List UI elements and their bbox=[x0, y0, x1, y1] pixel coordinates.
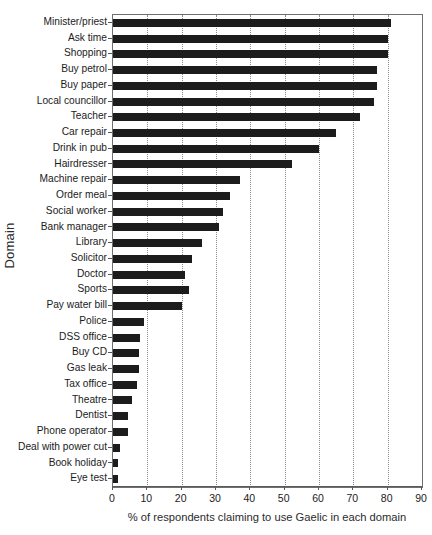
x-tick-mark-30 bbox=[215, 486, 216, 490]
y-tick-label: Pay water bill bbox=[46, 297, 107, 313]
x-tick-mark-10 bbox=[146, 486, 147, 490]
y-tick-label: Local councillor bbox=[37, 93, 107, 109]
bar bbox=[113, 475, 118, 483]
bar bbox=[113, 113, 360, 121]
x-tick-label-30: 30 bbox=[209, 492, 221, 504]
x-tick-label-80: 80 bbox=[381, 492, 393, 504]
y-tick-label: Buy petrol bbox=[61, 61, 107, 77]
bar bbox=[113, 349, 139, 357]
x-tick-mark-70 bbox=[352, 486, 353, 490]
y-tick-label: Bank manager bbox=[41, 219, 107, 235]
y-tick-label: Book holiday bbox=[49, 455, 107, 471]
gridline-80 bbox=[388, 15, 389, 487]
bar bbox=[113, 459, 118, 467]
y-tick-label: Drink in pub bbox=[53, 140, 107, 156]
y-tick-label: Hairdresser bbox=[54, 156, 107, 172]
bar bbox=[113, 286, 189, 294]
x-tick-label-90: 90 bbox=[415, 492, 427, 504]
x-tick-mark-50 bbox=[284, 486, 285, 490]
y-tick-label: Ask time bbox=[68, 30, 107, 46]
x-axis-title: % of respondents claiming to use Gaelic … bbox=[112, 511, 422, 523]
x-tick-mark-80 bbox=[387, 486, 388, 490]
x-tick-label-50: 50 bbox=[278, 492, 290, 504]
y-tick-label: Machine repair bbox=[40, 171, 107, 187]
bar bbox=[113, 255, 192, 263]
y-tick-label: Solicitor bbox=[71, 250, 107, 266]
bar bbox=[113, 334, 140, 342]
y-tick-label: Police bbox=[79, 313, 107, 329]
bar bbox=[113, 302, 182, 310]
bar bbox=[113, 239, 202, 247]
y-tick-label: Theatre bbox=[72, 392, 107, 408]
bar bbox=[113, 271, 185, 279]
y-tick-label: Minister/priest bbox=[44, 14, 107, 30]
y-axis-title: Domain bbox=[0, 0, 18, 490]
bar bbox=[113, 82, 377, 90]
y-tick-label: Tax office bbox=[64, 376, 107, 392]
y-tick-label: Eye test bbox=[70, 470, 107, 486]
y-tick-label: Shopping bbox=[64, 45, 107, 61]
y-tick-label: Order meal bbox=[56, 187, 107, 203]
y-tick-label: Deal with power cut bbox=[18, 439, 107, 455]
y-tick-label: Buy paper bbox=[61, 77, 107, 93]
y-tick-label: Social worker bbox=[46, 203, 107, 219]
bar bbox=[113, 129, 336, 137]
x-tick-mark-20 bbox=[181, 486, 182, 490]
bar bbox=[113, 145, 319, 153]
plot-area bbox=[112, 14, 423, 488]
bar bbox=[113, 35, 388, 43]
x-tick-mark-60 bbox=[318, 486, 319, 490]
x-tick-label-0: 0 bbox=[109, 492, 115, 504]
bar bbox=[113, 208, 223, 216]
x-tick-label-10: 10 bbox=[140, 492, 152, 504]
bar bbox=[113, 428, 128, 436]
bar bbox=[113, 192, 230, 200]
y-tick-label: Dentist bbox=[75, 407, 107, 423]
bar bbox=[113, 318, 144, 326]
bar bbox=[113, 381, 137, 389]
bar bbox=[113, 412, 128, 420]
bar bbox=[113, 98, 374, 106]
y-tick-label: Phone operator bbox=[37, 423, 107, 439]
x-tick-mark-0 bbox=[112, 486, 113, 490]
y-tick-label: Gas leak bbox=[67, 360, 107, 376]
bar-chart-figure: Domain Minister/priestAsk timeShoppingBu… bbox=[0, 0, 432, 535]
y-tick-label: DSS office bbox=[59, 329, 107, 345]
x-tick-mark-90 bbox=[421, 486, 422, 490]
y-tick-label: Sports bbox=[78, 281, 107, 297]
y-tick-label: Teacher bbox=[71, 108, 107, 124]
bar bbox=[113, 50, 388, 58]
x-tick-mark-40 bbox=[249, 486, 250, 490]
x-tick-label-70: 70 bbox=[346, 492, 358, 504]
y-tick-label: Buy CD bbox=[72, 344, 107, 360]
y-axis-tick-labels: Minister/priestAsk timeShoppingBuy petro… bbox=[18, 14, 112, 486]
x-tick-label-40: 40 bbox=[243, 492, 255, 504]
x-axis-line bbox=[112, 486, 422, 487]
bar bbox=[113, 19, 391, 27]
y-axis-title-text: Domain bbox=[2, 222, 17, 268]
y-tick-label: Library bbox=[76, 234, 107, 250]
bar bbox=[113, 160, 292, 168]
bar bbox=[113, 444, 120, 452]
x-tick-label-20: 20 bbox=[175, 492, 187, 504]
y-tick-label: Car repair bbox=[62, 124, 107, 140]
bar bbox=[113, 176, 240, 184]
plot-inner bbox=[113, 15, 422, 487]
x-tick-label-60: 60 bbox=[312, 492, 324, 504]
bar bbox=[113, 223, 219, 231]
bar bbox=[113, 66, 377, 74]
bar bbox=[113, 396, 132, 404]
bar bbox=[113, 365, 139, 373]
y-tick-label: Doctor bbox=[77, 266, 107, 282]
